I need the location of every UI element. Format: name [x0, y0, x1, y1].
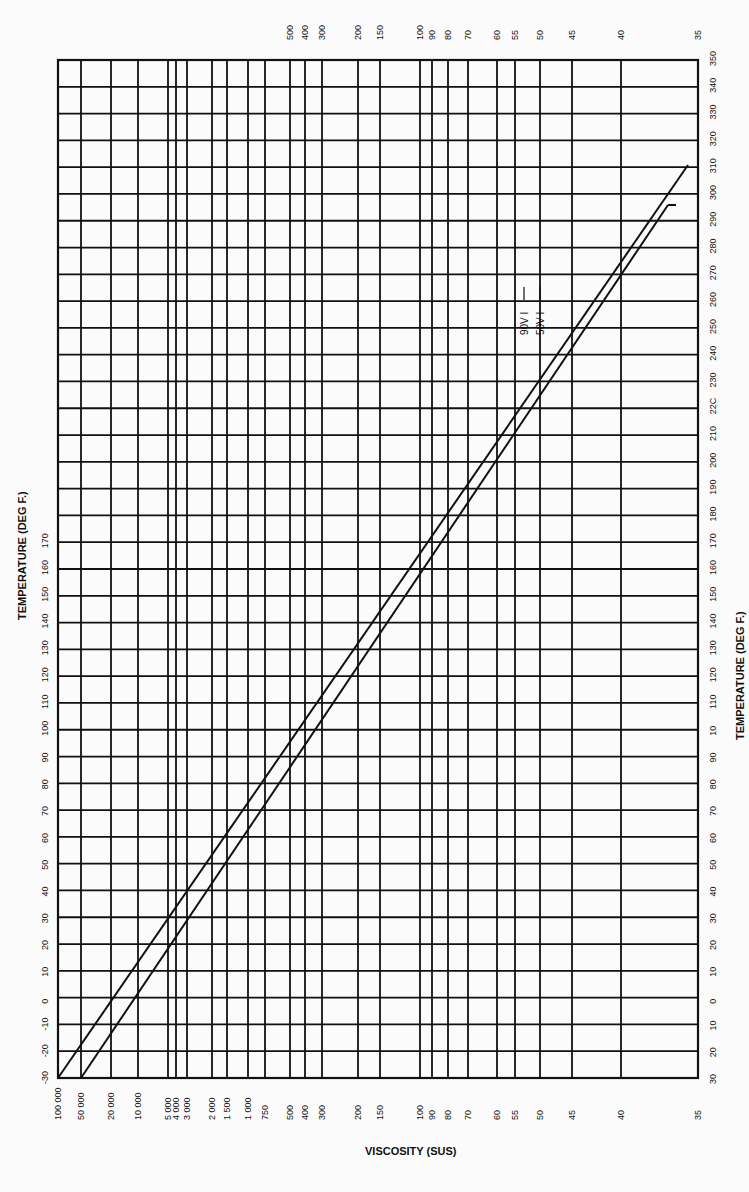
- temperature-right-tick-label: 270: [708, 265, 718, 280]
- temperature-right-tick-label: 70: [708, 806, 718, 816]
- viscosity-tick-label: 750: [260, 1105, 270, 1120]
- viscosity-tick-label: 50: [535, 1110, 545, 1120]
- viscosity-tick-label: 50 000: [76, 1092, 86, 1120]
- temperature-left-tick-label: 170: [40, 533, 50, 548]
- temperature-right-tick-label: 120: [708, 667, 718, 682]
- temperature-right-tick-label: 340: [708, 78, 718, 93]
- temperature-right-tick-label: 30: [708, 1074, 718, 1084]
- viscosity-top-tick-label: 80: [443, 30, 453, 40]
- temperature-right-tick-label: 90: [708, 753, 718, 763]
- temperature-left-tick-label: 20: [40, 940, 50, 950]
- temperature-left-tick-label: 160: [40, 560, 50, 575]
- viscosity-tick-label: 150: [375, 1105, 385, 1120]
- temperature-left-tick-label: -10: [40, 1017, 50, 1030]
- temperature-left-tick-label: 70: [40, 806, 50, 816]
- temperature-left-tick-label: 140: [40, 614, 50, 629]
- temperature-right-tick-label: 320: [708, 131, 718, 146]
- temperature-left-tick-label: 30: [40, 913, 50, 923]
- viscosity-tick-label: 4 000: [171, 1097, 181, 1120]
- right-temperature-ticks: 3020100102030405060708090101101201301401…: [708, 51, 718, 1084]
- temperature-right-tick-label: 60: [708, 833, 718, 843]
- bottom-viscosity-ticks: 100 00050 00020 00010 0005 0004 0003 000…: [53, 1087, 703, 1120]
- temperature-right-tick-label: 50: [708, 860, 718, 870]
- temperature-right-tick-label: 20: [708, 1047, 718, 1057]
- x-axis-title: VISCOSITY (SUS): [365, 1145, 457, 1157]
- series-line-50vi: [81, 205, 668, 1078]
- temperature-right-tick-label: 170: [708, 533, 718, 548]
- temperature-right-tick-label: 260: [708, 292, 718, 307]
- viscosity-top-tick-label: 45: [567, 30, 577, 40]
- viscosity-tick-label: 1 500: [222, 1097, 232, 1120]
- viscosity-top-tick-label: 50: [535, 30, 545, 40]
- viscosity-tick-label: 200: [353, 1105, 363, 1120]
- temperature-right-tick-label: 190: [708, 480, 718, 495]
- temperature-left-tick-label: 80: [40, 779, 50, 789]
- viscosity-tick-label: 100 000: [53, 1087, 63, 1120]
- viscosity-tick-label: 40: [616, 1110, 626, 1120]
- temperature-right-tick-label: 250: [708, 319, 718, 334]
- viscosity-tick-label: 45: [567, 1110, 577, 1120]
- viscosity-top-tick-label: 35: [693, 30, 703, 40]
- temperature-right-tick-label: 30: [708, 913, 718, 923]
- temperature-right-tick-label: 240: [708, 346, 718, 361]
- temperature-right-tick-label: 180: [708, 506, 718, 521]
- temperature-right-tick-label: 300: [708, 185, 718, 200]
- temperature-right-tick-label: 280: [708, 238, 718, 253]
- series-label-90vi: 90V I: [519, 312, 530, 335]
- viscosity-top-tick-label: 200: [353, 25, 363, 40]
- temperature-right-tick-label: 330: [708, 105, 718, 120]
- viscosity-top-tick-label: 100: [415, 25, 425, 40]
- temperature-right-tick-label: 230: [708, 372, 718, 387]
- temperature-left-tick-label: 90: [40, 753, 50, 763]
- viscosity-tick-label: 500: [285, 1105, 295, 1120]
- viscosity-top-tick-label: 300: [317, 25, 327, 40]
- viscosity-temperature-chart: 100 00050 00020 00010 0005 0004 0003 000…: [0, 0, 749, 1192]
- temperature-right-tick-label: 130: [708, 640, 718, 655]
- temperature-right-tick-label: 310: [708, 158, 718, 173]
- viscosity-tick-label: 90: [427, 1110, 437, 1120]
- viscosity-tick-label: 20 000: [106, 1092, 116, 1120]
- viscosity-top-tick-label: 90: [427, 30, 437, 40]
- temperature-right-tick-label: 40: [708, 886, 718, 896]
- temperature-right-tick-label: 210: [708, 426, 718, 441]
- temperature-left-tick-label: 130: [40, 640, 50, 655]
- viscosity-tick-label: 300: [317, 1105, 327, 1120]
- temperature-right-tick-label: 10: [708, 726, 718, 736]
- temperature-right-tick-label: 150: [708, 587, 718, 602]
- temperature-right-tick-label: 200: [708, 453, 718, 468]
- viscosity-tick-label: 60: [492, 1110, 502, 1120]
- temperature-left-tick-label: 100: [40, 721, 50, 736]
- temperature-right-tick-label: 10: [708, 1020, 718, 1030]
- series-label-50vi: 50V I: [535, 312, 546, 335]
- temperature-left-tick-label: -20: [40, 1044, 50, 1057]
- viscosity-tick-label: 100: [415, 1105, 425, 1120]
- viscosity-tick-label: 35: [693, 1110, 703, 1120]
- viscosity-tick-label: 400: [300, 1105, 310, 1120]
- top-viscosity-ticks: 500400300200150100908070605550454035: [285, 25, 703, 40]
- left-axis-title: TEMPERATURE (DEG F.): [16, 491, 28, 620]
- temperature-left-tick-label: 0: [40, 999, 50, 1004]
- temperature-right-tick-label: 110: [708, 695, 718, 709]
- temperature-left-tick-label: 110: [40, 695, 50, 709]
- viscosity-tick-label: 1 000: [243, 1097, 253, 1120]
- temperature-right-tick-label: 140: [708, 614, 718, 629]
- viscosity-top-tick-label: 500: [285, 25, 295, 40]
- viscosity-top-tick-label: 70: [463, 30, 473, 40]
- viscosity-tick-label: 55: [510, 1110, 520, 1120]
- viscosity-tick-label: 10 000: [133, 1092, 143, 1120]
- temperature-right-tick-label: 0: [708, 999, 718, 1004]
- viscosity-tick-label: 2 000: [207, 1097, 217, 1120]
- temperature-right-tick-label: 20: [708, 940, 718, 950]
- viscosity-tick-label: 70: [463, 1110, 473, 1120]
- temperature-right-tick-label: 10: [708, 967, 718, 977]
- right-axis-title: TEMPERATURE (DEG F.): [734, 611, 746, 740]
- temperature-left-tick-label: 150: [40, 587, 50, 602]
- temperature-left-tick-label: 40: [40, 886, 50, 896]
- left-temperature-ticks: -30-20-100102030405060708090100110120130…: [40, 533, 50, 1084]
- viscosity-tick-label: 3 000: [182, 1097, 192, 1120]
- temperature-right-tick-label: 160: [708, 560, 718, 575]
- temperature-left-tick-label: 50: [40, 860, 50, 870]
- horizontal-gridlines: [58, 87, 698, 1051]
- temperature-left-tick-label: 60: [40, 833, 50, 843]
- temperature-right-tick-label: 22C: [708, 397, 718, 414]
